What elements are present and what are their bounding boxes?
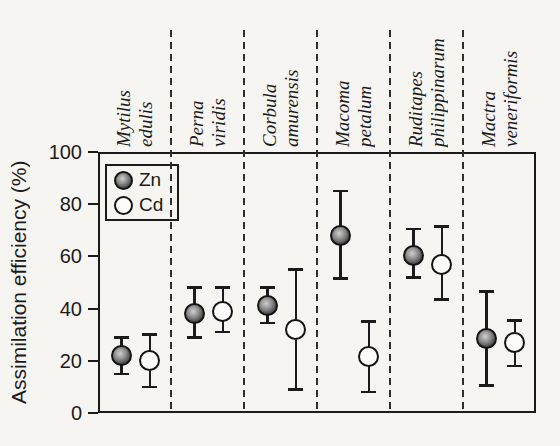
zn-error-cap-top xyxy=(479,290,494,293)
panel-separator xyxy=(243,30,245,413)
y-tick xyxy=(88,255,98,257)
legend-item-cd: Cd xyxy=(114,194,177,216)
y-axis-title: Assimilation efficiency (%) xyxy=(4,152,34,413)
cd-error-cap-bottom xyxy=(288,388,303,391)
cd-data-point xyxy=(212,301,233,322)
zn-data-point xyxy=(330,225,351,246)
panel-separator xyxy=(316,30,318,413)
cd-error-cap-bottom xyxy=(361,391,376,394)
cd-error-cap-top xyxy=(507,319,522,322)
species-label: Corbulaamurensis xyxy=(259,15,303,147)
cd-circle-icon xyxy=(114,196,133,215)
cd-error-cap-bottom xyxy=(507,365,522,368)
y-tick-label: 20 xyxy=(0,350,82,372)
y-tick-label: 40 xyxy=(0,298,82,320)
y-tick xyxy=(88,151,98,153)
zn-error-cap-bottom xyxy=(333,277,348,280)
cd-error-cap-top xyxy=(215,286,230,289)
cd-error-cap-top xyxy=(142,333,157,336)
zn-error-cap-top xyxy=(187,286,202,289)
cd-error-cap-top xyxy=(434,225,449,228)
legend: Zn Cd xyxy=(105,164,179,221)
species-label: Ruditapesphilippinarum xyxy=(405,15,449,147)
cd-error-cap-top xyxy=(361,320,376,323)
legend-label-zn: Zn xyxy=(139,169,161,191)
cd-error-cap-bottom xyxy=(215,331,230,334)
zn-error-cap-bottom xyxy=(187,336,202,339)
zn-error-cap-bottom xyxy=(479,384,494,387)
zn-error-cap-top xyxy=(260,286,275,289)
legend-label-cd: Cd xyxy=(139,194,163,216)
zn-error-cap-bottom xyxy=(260,322,275,325)
zn-error-cap-top xyxy=(114,336,129,339)
zn-error-cap-bottom xyxy=(114,373,129,376)
panel-separator xyxy=(462,30,464,413)
y-tick-label: 100 xyxy=(0,141,82,163)
cd-data-point xyxy=(431,254,452,275)
species-label: Macomapetalum xyxy=(332,15,376,147)
cd-error-cap-bottom xyxy=(142,386,157,389)
zn-data-point xyxy=(111,345,132,366)
panel-separator xyxy=(170,30,172,413)
assimilation-efficiency-figure: Assimilation efficiency (%) Zn Cd 020406… xyxy=(0,0,560,446)
zn-data-point xyxy=(403,245,424,266)
cd-error-cap-bottom xyxy=(434,298,449,301)
species-label: Mactraveneriformis xyxy=(478,15,522,147)
y-tick xyxy=(88,412,98,414)
zn-sphere-icon xyxy=(114,171,133,190)
zn-data-point xyxy=(476,328,497,349)
zn-error-cap-top xyxy=(333,190,348,193)
zn-error-cap-top xyxy=(406,228,421,231)
y-tick xyxy=(88,203,98,205)
zn-error-cap-bottom xyxy=(406,276,421,279)
y-tick xyxy=(88,308,98,310)
panel-separator xyxy=(389,30,391,413)
species-label: Mytilusedulis xyxy=(113,15,157,147)
y-tick-label: 80 xyxy=(0,193,82,215)
y-tick xyxy=(88,360,98,362)
species-label: Pernaviridis xyxy=(186,15,230,147)
y-tick-label: 0 xyxy=(0,402,82,424)
cd-error-cap-top xyxy=(288,268,303,271)
legend-item-zn: Zn xyxy=(114,169,177,191)
y-tick-label: 60 xyxy=(0,245,82,267)
